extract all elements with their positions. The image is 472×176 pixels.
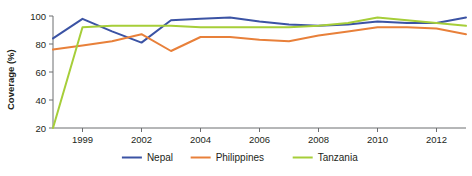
y-axis-title-text: Coverage (%) (5, 49, 16, 110)
legend-label-tanzania: Tanzania (318, 152, 358, 163)
y-axis-title: Coverage (%) (5, 49, 16, 110)
series-lines (53, 17, 466, 128)
y-tick-label: 80 (35, 39, 46, 50)
chart-legend: NepalPhilippinesTanzania (122, 152, 358, 163)
y-tick-label: 20 (35, 123, 46, 134)
y-tick-label: 60 (35, 67, 46, 78)
y-tick-label: 40 (35, 95, 46, 106)
x-tick-label: 2008 (308, 134, 329, 145)
x-tick-label: 2002 (131, 134, 152, 145)
legend-label-nepal: Nepal (147, 152, 173, 163)
series-line-tanzania (53, 17, 466, 128)
chart-figure: Coverage (%) 20406080100 199920022004200… (0, 0, 472, 176)
x-tick-label: 2012 (426, 134, 447, 145)
x-tick-label: 2006 (249, 134, 270, 145)
y-axis-ticks: 20406080100 (30, 11, 53, 134)
legend-label-philippines: Philippines (216, 152, 264, 163)
x-axis-ticks: 1999200220042006200820102012 (72, 128, 447, 145)
x-tick-label: 2004 (190, 134, 211, 145)
x-tick-label: 1999 (72, 134, 93, 145)
series-line-philippines (53, 27, 466, 51)
y-tick-label: 100 (30, 11, 46, 22)
x-tick-label: 2010 (367, 134, 388, 145)
line-chart: Coverage (%) 20406080100 199920022004200… (0, 0, 472, 176)
